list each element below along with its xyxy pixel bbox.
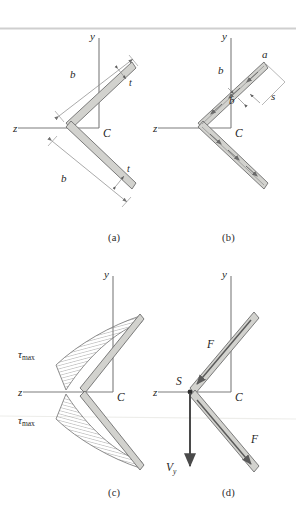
panel-d-y-label: y	[221, 268, 227, 280]
panel-d-shear-force-label: Vy	[166, 461, 177, 476]
panel-d-z-label: z	[152, 386, 158, 398]
panel-a-z-label: z	[12, 122, 18, 134]
panel-a-thickness-upper-label: t	[129, 77, 132, 88]
panel-a-dim-b-upper-label: b	[70, 68, 76, 80]
panel-d-lower-leg	[190, 390, 259, 472]
panel-c-centroid-label: C	[117, 391, 125, 403]
panel-a-dim-b-lower-label: b	[61, 172, 67, 184]
panel-b-coordinate-s-label: s	[271, 90, 275, 102]
panel-d-force-upper-label: F	[206, 338, 215, 350]
panel-a-thickness-lower-label: t	[127, 163, 130, 174]
panel-a: y z C b b t t	[12, 30, 138, 207]
panel-b-y-label: y	[221, 30, 227, 42]
panel-a-dim-b-upper	[55, 55, 138, 122]
panel-c-tau-sub-upper: max	[22, 353, 35, 362]
angle-section-figure: y z C b b t t	[0, 0, 296, 519]
panel-d: y z C S F F Vy	[152, 268, 259, 476]
caption-d: (d)	[222, 487, 235, 498]
svg-text:τmax: τmax	[18, 348, 35, 362]
faint-mid-rule	[0, 416, 296, 419]
panel-b-z-label: z	[152, 122, 158, 134]
panel-d-axes	[158, 276, 231, 392]
panel-b-dim-b-upper-label: b	[218, 64, 224, 76]
panel-c-z-label: z	[17, 386, 23, 398]
panel-a-upper-leg	[66, 62, 136, 129]
panel-d-centroid-label: C	[235, 391, 243, 403]
panel-d-shear-center-label: S	[176, 375, 182, 387]
panel-a-y-label: y	[89, 30, 95, 42]
panel-d-force-lower-label: F	[250, 433, 259, 445]
panel-b-end-label: a	[262, 48, 268, 60]
caption-b: (b)	[222, 232, 235, 243]
panel-c-y-label: y	[103, 268, 109, 280]
panel-b-dim-b-inner-label: b	[229, 94, 235, 106]
panel-a-centroid-label: C	[103, 127, 111, 139]
panel-c-tau-max-upper: τmax	[18, 348, 35, 362]
panel-d-V-sub: y	[172, 467, 177, 476]
panel-b-axes	[158, 38, 231, 128]
panel-d-force-lower	[197, 400, 251, 464]
panel-b: y z C a b b s	[152, 30, 285, 189]
panel-c-tau-sub-lower: max	[22, 419, 35, 428]
panel-b-centroid-label: C	[235, 127, 243, 139]
figure-root: y z C b b t t	[0, 0, 296, 519]
caption-c: (c)	[108, 487, 120, 498]
panel-b-shear-flow-lower	[202, 127, 264, 185]
panel-d-upper-leg	[190, 312, 259, 394]
panel-d-force-upper	[197, 320, 251, 384]
svg-text:Vy: Vy	[166, 461, 177, 476]
caption-a: (a)	[108, 232, 120, 243]
panel-a-lower-leg	[66, 121, 136, 189]
panel-c: y z C τmax τmax	[17, 268, 144, 470]
